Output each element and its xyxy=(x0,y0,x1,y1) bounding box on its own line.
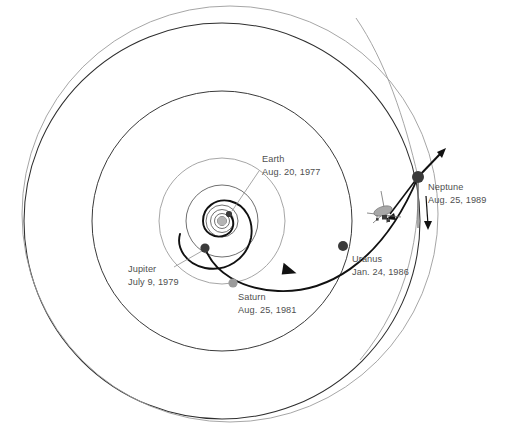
label-group: Earth Aug. 20, 1977 Jupiter July 9, 1979… xyxy=(128,154,487,315)
trajectory-diagram: Earth Aug. 20, 1977 Jupiter July 9, 1979… xyxy=(0,0,518,445)
earth-marker xyxy=(226,211,232,217)
saturn-label-body: Saturn xyxy=(238,292,266,302)
jupiter-label-date: July 9, 1979 xyxy=(128,277,179,287)
saturn-label-date: Aug. 25, 1981 xyxy=(238,305,297,315)
diagram-canvas: Earth Aug. 20, 1977 Jupiter July 9, 1979… xyxy=(0,0,518,445)
uranus-marker xyxy=(338,241,348,251)
neptune-label-date: Aug. 25, 1989 xyxy=(428,195,487,205)
uranus-label-body: Uranus xyxy=(352,254,383,264)
jupiter-leader-line xyxy=(174,251,202,267)
saturn-marker xyxy=(228,278,237,287)
trajectory-inner-spiral xyxy=(179,200,251,268)
neptune-label-body: Neptune xyxy=(428,182,463,192)
neptune-marker xyxy=(412,171,424,183)
earth-label-body: Earth xyxy=(262,154,284,164)
spacecraft-bus xyxy=(382,215,387,220)
earth-leader-line xyxy=(232,171,259,211)
pluto-orbit-upper-arc xyxy=(356,18,418,177)
neptune-down-arrow-head xyxy=(424,221,432,230)
trajectory-direction-arrowhead xyxy=(281,263,298,278)
sun-marker xyxy=(217,216,226,225)
jupiter-label-body: Jupiter xyxy=(128,264,156,274)
uranus-label-date: Jan. 24, 1986 xyxy=(352,267,409,277)
neptune-to-spacecraft-line xyxy=(390,177,418,214)
earth-label-date: Aug. 20, 1977 xyxy=(262,167,321,177)
